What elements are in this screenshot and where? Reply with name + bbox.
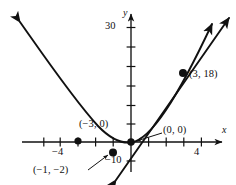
math-graph-figure: y x 30 −10 −4 4 (−3, 0) (−1, −2) (0, 0) … [0, 0, 236, 185]
point-label-neg3-0: (−3, 0) [79, 119, 108, 130]
point-label-0-0: (0, 0) [163, 125, 186, 136]
y-tick-label-30: 30 [105, 21, 116, 32]
x-axis-label: x [222, 125, 227, 135]
point-marker [74, 137, 81, 144]
y-axis [127, 14, 136, 172]
point-marker [179, 69, 187, 77]
line-graph [116, 18, 229, 180]
leader-lines [88, 133, 162, 170]
point-label-3-18: (3, 18) [189, 69, 218, 80]
x-tick-label-4: 4 [194, 147, 199, 158]
point-marker [127, 138, 135, 146]
x-tick-label-neg4: −4 [52, 147, 63, 158]
y-axis-label: y [123, 8, 128, 18]
point-label-neg1-neg2: (−1, −2) [33, 165, 68, 176]
y-tick-label-neg10: −10 [105, 155, 122, 166]
